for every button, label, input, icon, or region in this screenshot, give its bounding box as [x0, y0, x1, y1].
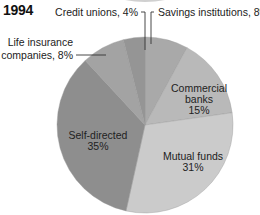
- label-mutual-line2: 31%: [182, 161, 203, 173]
- label-life-insurance-line1: Life insurance: [8, 36, 74, 48]
- label-life-insurance-line2: companies, 8%: [1, 49, 73, 61]
- label-self-directed-line2: 35%: [87, 140, 108, 152]
- label-savings-institutions: Savings institutions, 8%: [158, 6, 260, 18]
- label-credit-unions: Credit unions, 4%: [55, 6, 138, 18]
- cropped-arc-remnant: [125, 0, 165, 2]
- pie-chart: Credit unions, 4% Savings institutions, …: [0, 0, 260, 215]
- pie-slices: [57, 37, 233, 213]
- label-commercial-line3: 15%: [188, 104, 209, 116]
